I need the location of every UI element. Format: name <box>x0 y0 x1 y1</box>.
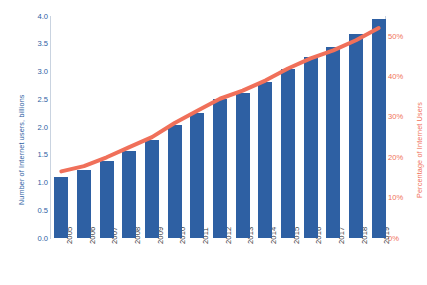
y-tick-left-3.5: 3.5 <box>26 39 48 48</box>
bar-2019 <box>372 19 386 238</box>
bar-2009 <box>145 140 159 238</box>
y-tick-left-2.0: 2.0 <box>26 123 48 132</box>
bar-2012 <box>213 99 227 238</box>
bar-2011 <box>190 113 204 238</box>
y-tick-right-30pct: 30% <box>388 112 412 121</box>
bar-2007 <box>100 161 114 238</box>
bar-2005 <box>54 177 68 238</box>
chart-container: Number of Internet users, billions Perce… <box>0 0 427 285</box>
bar-2016 <box>304 57 318 238</box>
y-tick-right-20pct: 20% <box>388 153 412 162</box>
bar-2010 <box>168 125 182 238</box>
y-tick-right-10pct: 10% <box>388 193 412 202</box>
y-tick-right-50pct: 50% <box>388 32 412 41</box>
y-tick-left-1.5: 1.5 <box>26 150 48 159</box>
y-axis-left-title: Number of Internet users, billions <box>17 94 26 205</box>
bar-2008 <box>122 151 136 238</box>
y-tick-right-40pct: 40% <box>388 72 412 81</box>
bar-2018 <box>349 34 363 238</box>
y-tick-left-3.0: 3.0 <box>26 67 48 76</box>
y-tick-left-2.5: 2.5 <box>26 95 48 104</box>
bar-2017 <box>326 47 340 238</box>
y-tick-left-0.5: 0.5 <box>26 206 48 215</box>
y-tick-right-0pct: 0% <box>388 234 412 243</box>
y-tick-left-0.0: 0.0 <box>26 234 48 243</box>
y-tick-left-1.0: 1.0 <box>26 178 48 187</box>
bar-2013 <box>236 93 250 238</box>
plot-area <box>50 16 390 238</box>
y-tick-left-4.0: 4.0 <box>26 12 48 21</box>
bar-2015 <box>281 69 295 238</box>
y-axis-right-title: Percentage of Internet Users <box>415 102 424 198</box>
bar-2006 <box>77 170 91 238</box>
bar-2014 <box>258 82 272 239</box>
